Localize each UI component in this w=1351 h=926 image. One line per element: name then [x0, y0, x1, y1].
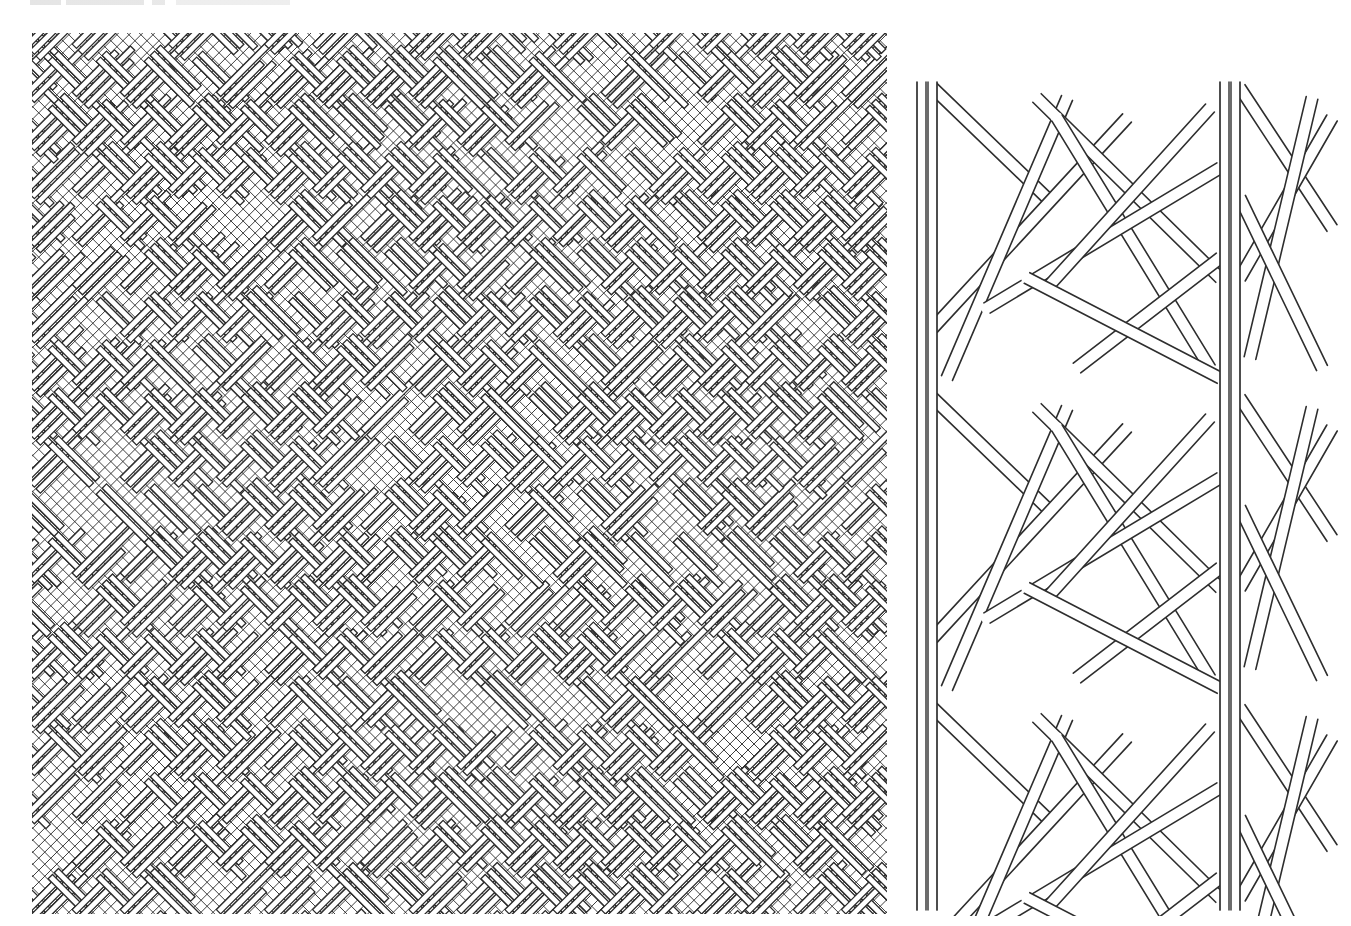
illegible-caption-text [30, 0, 290, 5]
tubular-braid-illustration [912, 78, 1342, 916]
diagonal-weave-illustration [32, 33, 887, 914]
weave-diagram-panel [32, 33, 887, 914]
figure-caption-cropped [30, 0, 290, 5]
braid-diagram-panel [912, 78, 1342, 916]
